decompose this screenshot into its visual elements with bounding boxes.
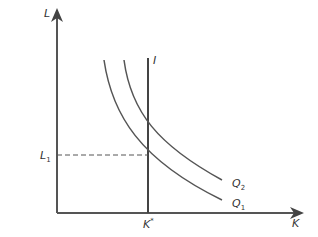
isoquant-q1 xyxy=(104,60,222,200)
kstar-label: K* xyxy=(143,218,154,230)
x-axis-label: K xyxy=(292,218,299,229)
vertical-line-label: I xyxy=(153,55,156,66)
isoquant-q2 xyxy=(124,60,222,180)
l1-label: L1 xyxy=(40,150,51,164)
isoquant-diagram xyxy=(0,0,318,237)
q2-label: Q2 xyxy=(232,178,245,192)
y-axis-label: L xyxy=(44,8,50,19)
q1-label: Q1 xyxy=(232,198,245,212)
